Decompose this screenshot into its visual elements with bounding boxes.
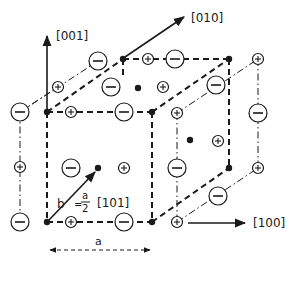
cation-icon <box>143 54 154 65</box>
anion-icon <box>249 104 267 122</box>
lattice-site-dot <box>149 219 155 225</box>
crystal-lattice-diagram: [001] [010] [100] b = a 2 [101] a <box>0 0 298 291</box>
anion-icon <box>168 159 186 177</box>
anion-icon <box>11 103 29 121</box>
lattice-site-dot <box>149 109 155 115</box>
anion-icon <box>209 187 227 205</box>
cation-icon <box>15 162 26 173</box>
axis-100-label: [100] <box>253 216 285 230</box>
cation-icon <box>172 108 183 119</box>
anion-icon <box>11 213 29 231</box>
cation-icon <box>119 163 130 174</box>
cation-icon <box>66 107 77 118</box>
anion-icon <box>207 76 225 94</box>
cation-icon <box>253 54 264 65</box>
cation-icon <box>53 82 64 93</box>
lattice-site-dot <box>187 137 193 143</box>
lattice-site-dot <box>95 165 101 171</box>
lattice-site-dot <box>120 56 126 62</box>
anion-icon <box>102 78 120 96</box>
burgers-vector-direction: [101] <box>97 196 129 210</box>
anion-icon <box>89 52 107 70</box>
cation-icon <box>172 217 183 228</box>
anion-icon <box>62 159 80 177</box>
lattice-site-dot <box>226 56 232 62</box>
cation-icon <box>66 217 77 228</box>
axis-001-label: [001] <box>56 29 88 43</box>
anion-icon <box>115 103 133 121</box>
burgers-vector-numerator: a <box>82 190 88 201</box>
lattice-parameter-label: a <box>95 235 102 248</box>
lattice-site-dot <box>135 85 141 91</box>
lattice-site-dot <box>226 165 232 171</box>
anion-icon <box>166 50 184 68</box>
lattice-site-dot <box>44 219 50 225</box>
cation-icon <box>158 82 169 93</box>
cation-icon <box>213 136 224 147</box>
lattice-parameter: a <box>50 235 150 250</box>
cation-icon <box>253 163 264 174</box>
lattice-sites <box>44 56 232 225</box>
anion-icon <box>115 213 133 231</box>
burgers-vector: b = a 2 [101] <box>49 172 129 220</box>
burgers-vector-symbol: b <box>57 197 65 211</box>
lattice-site-dot <box>44 109 50 115</box>
unit-cell-edges <box>47 59 229 222</box>
axis-010-label: [010] <box>191 11 223 25</box>
burgers-vector-denominator: 2 <box>82 203 88 214</box>
